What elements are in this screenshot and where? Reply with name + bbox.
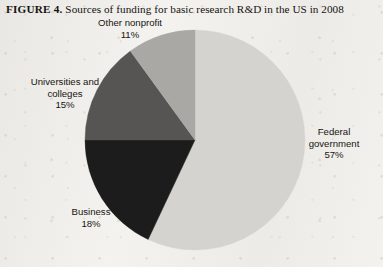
pie-label-business-name: Business [36,206,146,218]
pie-label-universities-and-colleges: Universities and colleges 15% [6,76,124,111]
pie-label-business-value: 18% [36,218,146,230]
pie-label-business: Business 18% [36,206,146,229]
pie-label-other-nonprofit-value: 11% [72,29,188,41]
pie-label-universities-value: 15% [6,99,124,111]
pie-label-universities-line1: Universities and [6,76,124,88]
pie-chart: Other nonprofit 11% Universities and col… [0,0,383,267]
pie-label-federal-line2: government [288,138,380,150]
pie-label-other-nonprofit-name: Other nonprofit [72,17,188,29]
pie-label-federal-government: Federal government 57% [288,126,380,161]
pie-label-federal-value: 57% [288,149,380,161]
pie-label-other-nonprofit: Other nonprofit 11% [72,17,188,40]
pie-label-universities-line2: colleges [6,88,124,100]
pie-label-federal-line1: Federal [288,126,380,138]
